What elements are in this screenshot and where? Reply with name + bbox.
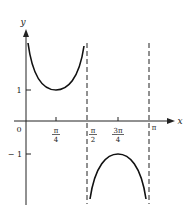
x-tick-pi-over-2-num: π [91,127,96,135]
x-tick-pi: π [152,124,157,132]
x-tick-pi-over-4-num: π [54,127,59,135]
curve-branch-1 [28,43,84,90]
x-axis-label: x [177,116,182,126]
y-tick-label-1: 1 [16,86,21,95]
x-tick-3pi-over-4-num: 3π [113,127,122,135]
x-tick-pi-over-2-den: 2 [91,136,95,144]
y-tick-label-minus-1: − 1 [8,150,22,159]
x-tick-pi-over-4-den: 4 [54,136,59,144]
origin-label: 0 [16,125,21,134]
y-axis-label: y [19,17,26,27]
x-tick-3pi-over-4-den: 4 [116,136,121,144]
x-axis-arrow-icon [167,118,175,124]
y-axis-arrow-icon [23,29,29,37]
curve-branch-2 [90,154,146,199]
csc-graph: y x 0 1 − 1 π 4 π 2 3π 4 π [0,0,188,215]
